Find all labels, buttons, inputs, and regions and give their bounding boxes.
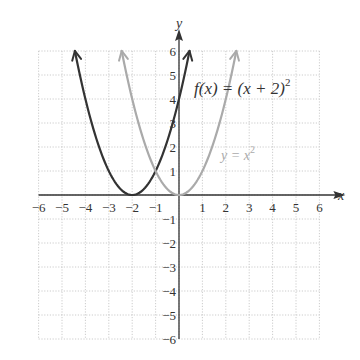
x-tick-label: −6 <box>32 200 46 215</box>
y-tick-label: 4 <box>170 92 177 107</box>
x-tick-label: 1 <box>199 200 206 215</box>
y-tick-label: 6 <box>170 44 177 59</box>
y-axis-label: y <box>174 16 183 31</box>
y-tick-label: −6 <box>162 332 176 347</box>
y-tick-label: −3 <box>162 260 176 275</box>
y-tick-label: −1 <box>162 212 176 227</box>
x-tick-label: −4 <box>78 200 92 215</box>
y-tick-label: 1 <box>170 164 177 179</box>
curve-label-shifted-parabola: f(x) = (x + 2)2 <box>194 76 290 98</box>
x-tick-label: −1 <box>149 200 163 215</box>
chart: −6−5−4−3−2−1123456654321−1−2−3−4−5−6 f(x… <box>0 0 360 360</box>
y-tick-label: −5 <box>162 308 176 323</box>
y-tick-label: −4 <box>162 284 176 299</box>
x-axis-label: x <box>337 188 345 203</box>
x-tick-label: 3 <box>246 200 253 215</box>
axes <box>39 29 346 339</box>
x-tick-label: 2 <box>223 200 230 215</box>
x-tick-label: 4 <box>269 200 276 215</box>
x-tick-label: 5 <box>293 200 300 215</box>
y-tick-label: 2 <box>170 140 177 155</box>
x-tick-label: −5 <box>55 200 69 215</box>
y-tick-label: −2 <box>162 236 176 251</box>
x-tick-label: −3 <box>102 200 116 215</box>
x-tick-label: 6 <box>316 200 323 215</box>
x-tick-label: −2 <box>125 200 139 215</box>
y-tick-label: 5 <box>170 68 177 83</box>
curves <box>72 51 239 195</box>
curve-labels: f(x) = (x + 2)2 y = x2 <box>194 76 290 163</box>
